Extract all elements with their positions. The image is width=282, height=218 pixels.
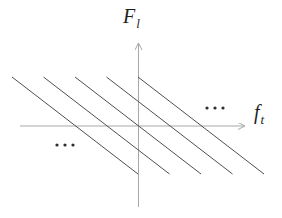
horizontal-axis-label-subscript: t (261, 112, 265, 127)
ellipsis-bottom-left-dot (71, 143, 74, 146)
diagram-root: Fl ft (0, 0, 282, 218)
ellipsis-bottom-left-dot (63, 143, 66, 146)
horizontal-axis-label-base: f (254, 101, 260, 123)
vertical-axis-label-subscript: l (136, 16, 140, 31)
axes (20, 43, 245, 207)
ellipsis-top-right-dot (213, 106, 216, 109)
ellipsis-bottom-left-dot (55, 143, 58, 146)
vertical-axis-label-base: F (123, 5, 135, 27)
vertical-axis-label: Fl (123, 6, 140, 26)
horizontal-axis-label: ft (254, 102, 264, 122)
ellipsis-top-right-dot (205, 106, 208, 109)
diagram-canvas (0, 0, 282, 218)
ellipsis-top-right-dot (221, 106, 224, 109)
